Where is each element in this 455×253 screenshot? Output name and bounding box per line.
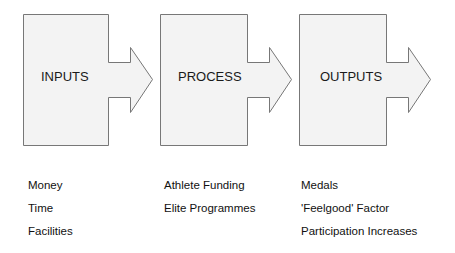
outputs-item: Medals	[301, 174, 417, 197]
stage-label-process: PROCESS	[178, 69, 242, 85]
inputs-item-list: Money Time Facilities	[28, 174, 73, 243]
inputs-item: Facilities	[28, 220, 73, 243]
inputs-item: Money	[28, 174, 73, 197]
process-item: Elite Programmes	[164, 197, 255, 220]
outputs-item-list: Medals 'Feelgood' Factor Participation I…	[301, 174, 417, 243]
stage-label-inputs: INPUTS	[41, 69, 89, 85]
stage-label-outputs: OUTPUTS	[320, 69, 382, 85]
outputs-item: 'Feelgood' Factor	[301, 197, 417, 220]
outputs-item: Participation Increases	[301, 220, 417, 243]
inputs-item: Time	[28, 197, 73, 220]
process-item-list: Athlete Funding Elite Programmes	[164, 174, 255, 220]
process-item: Athlete Funding	[164, 174, 255, 197]
